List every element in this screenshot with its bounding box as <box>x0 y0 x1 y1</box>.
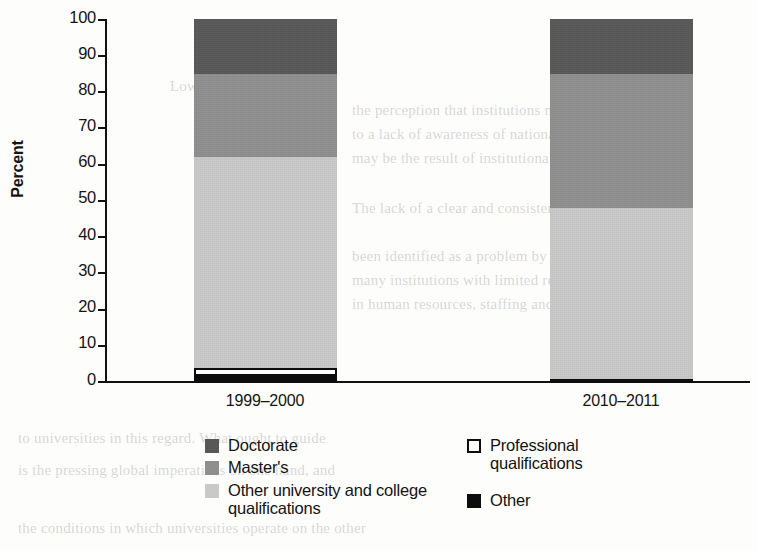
legend-swatch-professional-icon <box>467 439 481 453</box>
y-axis-tick-labels: 100 90 80 70 60 50 40 30 20 10 0 <box>22 0 96 400</box>
bar-segment-doctorate[interactable] <box>550 19 693 74</box>
y-tick-100: 100 <box>52 8 96 27</box>
x-tick-label-1999-2000: 1999–2000 <box>165 392 365 410</box>
bar-segment-other[interactable] <box>194 376 337 383</box>
legend-column-left: Doctorate Master's Other university and … <box>205 436 441 518</box>
bar-1999-2000[interactable] <box>194 19 337 383</box>
legend-swatch-other-university-icon <box>205 484 219 498</box>
y-axis-line <box>105 19 107 383</box>
legend-label-professional: Professional qualifications <box>490 436 675 473</box>
legend-column-right: Professional qualifications Other <box>467 436 675 518</box>
y-tick-70: 70 <box>52 116 96 135</box>
legend-swatch-doctorate-icon <box>205 439 219 453</box>
legend-label-masters: Master's <box>228 458 288 476</box>
legend-item-masters[interactable]: Master's <box>205 458 441 476</box>
bar-segment-doctorate[interactable] <box>194 19 337 74</box>
bar-2010-2011[interactable] <box>550 19 693 383</box>
y-tick-90: 90 <box>52 44 96 63</box>
y-tick-60: 60 <box>52 152 96 171</box>
y-tick-10: 10 <box>52 333 96 352</box>
legend-label-doctorate: Doctorate <box>228 436 298 454</box>
y-tick-80: 80 <box>52 80 96 99</box>
bar-segment-professional[interactable] <box>194 368 337 375</box>
bar-segment-other-university[interactable] <box>550 208 693 379</box>
y-tick-0: 0 <box>52 370 96 389</box>
bar-segment-masters[interactable] <box>194 74 337 158</box>
bar-segment-other[interactable] <box>550 379 693 383</box>
legend-item-doctorate[interactable]: Doctorate <box>205 436 441 454</box>
legend-swatch-other-icon <box>467 494 481 508</box>
bar-segment-masters[interactable] <box>550 74 693 209</box>
x-tick-label-2010-2011: 2010–2011 <box>521 392 721 410</box>
legend-label-other: Other <box>490 491 530 509</box>
bar-segment-other-university[interactable] <box>194 157 337 368</box>
legend-label-other-university: Other university and college qualificati… <box>228 481 441 518</box>
legend-item-other-university[interactable]: Other university and college qualificati… <box>205 481 441 518</box>
legend-swatch-masters-icon <box>205 461 219 475</box>
y-tick-40: 40 <box>52 225 96 244</box>
y-tick-50: 50 <box>52 188 96 207</box>
y-tick-30: 30 <box>52 261 96 280</box>
legend-item-professional[interactable]: Professional qualifications <box>467 436 675 473</box>
stacked-bar-chart: Percent 100 90 80 70 60 50 40 30 20 10 0 <box>0 0 757 551</box>
legend-item-other[interactable]: Other <box>467 491 675 509</box>
y-tick-20: 20 <box>52 297 96 316</box>
chart-legend: Doctorate Master's Other university and … <box>205 436 675 518</box>
